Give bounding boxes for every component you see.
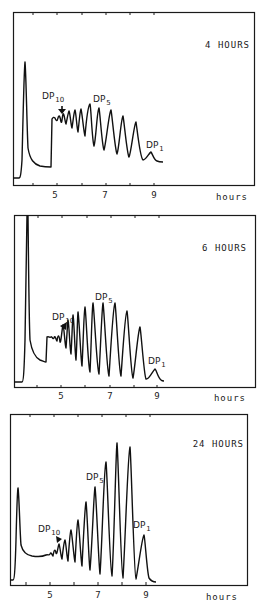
x-axis-label: hours — [216, 192, 248, 202]
svg-text:DP1: DP1 — [148, 356, 166, 369]
svg-text:DP10: DP10 — [42, 91, 64, 104]
x-axis-label: hours — [206, 592, 238, 602]
tick-label-5: 5 — [47, 590, 52, 600]
annotation-dp5: DP5 — [86, 472, 104, 485]
annotation-dp1: DP1 — [148, 356, 166, 369]
annotation-dp1: DP1 — [133, 520, 151, 533]
svg-text:DP1: DP1 — [146, 140, 164, 153]
panel-title: 6 HOURS — [202, 243, 247, 253]
svg-text:DP10: DP10 — [52, 312, 74, 325]
chromatogram-trace — [14, 215, 164, 382]
chromatogram-figure: 5 7 9 hours 4 HOURS DP10 DP5 DP1 — [0, 0, 263, 606]
tick-label-7: 7 — [95, 590, 100, 600]
panel-24-hours: 5 7 9 hours 24 HOURS DP10 DP5 DP1 — [10, 414, 248, 602]
tick-label-9: 9 — [154, 391, 159, 401]
svg-text:DP1: DP1 — [133, 520, 151, 533]
annotation-dp10: DP10 — [42, 91, 66, 114]
panel-title: 24 HOURS — [193, 439, 244, 449]
panel-4-hours: 5 7 9 hours 4 HOURS DP10 DP5 DP1 — [13, 12, 255, 202]
panel-6-hours: 5 7 9 hours 6 HOURS DP10 DP5 DP1 — [14, 215, 256, 403]
tick-label-9: 9 — [151, 190, 156, 200]
x-axis-label: hours — [214, 393, 246, 403]
annotation-dp5: DP5 — [93, 94, 111, 107]
svg-text:DP10: DP10 — [38, 524, 60, 537]
tick-label-7: 7 — [107, 391, 112, 401]
chromatogram-trace — [10, 443, 156, 582]
chromatogram-trace — [13, 62, 163, 178]
tick-label-9: 9 — [143, 590, 148, 600]
tick-label-5: 5 — [58, 391, 63, 401]
bottom-ticks — [26, 582, 146, 585]
arrow-right-icon — [56, 536, 62, 543]
annotation-dp5: DP5 — [95, 292, 113, 305]
annotation-dp10: DP10 — [38, 524, 62, 543]
svg-text:DP5: DP5 — [93, 94, 111, 107]
tick-label-5: 5 — [52, 190, 57, 200]
tick-label-7: 7 — [102, 190, 107, 200]
annotation-dp1: DP1 — [146, 140, 164, 153]
svg-text:DP5: DP5 — [95, 292, 113, 305]
svg-text:DP5: DP5 — [86, 472, 104, 485]
panel-title: 4 HOURS — [205, 40, 250, 50]
annotation-dp10: DP10 — [52, 312, 74, 330]
